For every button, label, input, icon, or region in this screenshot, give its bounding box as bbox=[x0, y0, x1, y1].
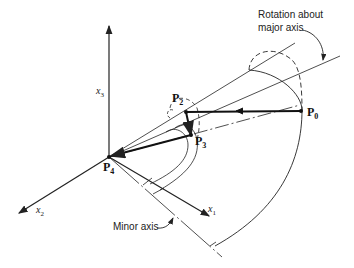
x2-axis bbox=[19, 157, 109, 213]
x1-axis bbox=[109, 157, 209, 216]
large-dashed-arc bbox=[249, 51, 302, 110]
minor-axis-leader-arrow bbox=[157, 218, 173, 228]
label-x1: x1 bbox=[208, 204, 216, 217]
rotation-label-line2: major axis bbox=[258, 23, 304, 33]
point-p4 bbox=[107, 155, 111, 159]
minor-axis-tick-3 bbox=[210, 242, 216, 246]
label-x3: x3 bbox=[96, 86, 104, 99]
label-x2: x2 bbox=[36, 205, 44, 218]
vector-p3-p4 bbox=[111, 135, 191, 156]
point-p3 bbox=[189, 133, 193, 137]
inner-dashed-arc-2 bbox=[167, 110, 173, 118]
vector-p0-p2-arrowhead bbox=[236, 108, 243, 114]
rotation-label-line1: Rotation about bbox=[258, 10, 323, 20]
point-p2 bbox=[184, 110, 188, 114]
label-p3: P3 bbox=[195, 135, 206, 150]
ellipsoid-rotation-diagram bbox=[0, 0, 354, 268]
vector-p2-p3 bbox=[186, 112, 191, 135]
minor-axis-label: Minor axis bbox=[113, 222, 159, 232]
label-p4: P4 bbox=[103, 161, 114, 176]
point-p0 bbox=[299, 109, 303, 113]
label-p2: P2 bbox=[172, 92, 183, 107]
label-p0: P0 bbox=[307, 106, 318, 121]
vector-p0-p2 bbox=[186, 111, 301, 112]
major-axis-line bbox=[109, 56, 340, 157]
large-ellipse-arc bbox=[215, 70, 302, 246]
rotation-leader-arrow bbox=[302, 30, 323, 60]
minor-axis-line bbox=[109, 157, 222, 257]
